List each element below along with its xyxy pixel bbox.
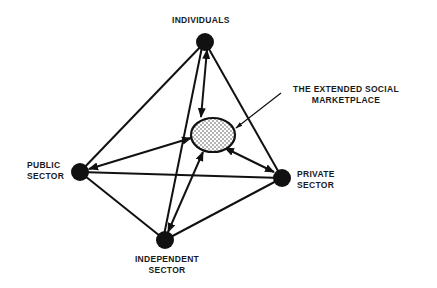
- node-public-sector: [71, 163, 89, 181]
- label-extended-social-marketplace: THE EXTENDED SOCIAL MARKETPLACE: [286, 84, 406, 106]
- node-individuals: [196, 33, 214, 51]
- label-center-line1: THE EXTENDED SOCIAL: [286, 84, 406, 95]
- label-private-line1: PRIVATE: [297, 169, 335, 180]
- edge-independent-private: [165, 178, 282, 240]
- label-private-sector: PRIVATE SECTOR: [297, 169, 335, 191]
- edge-public-independent: [80, 172, 165, 240]
- arrow-public-center: [89, 138, 191, 169]
- label-public-line1: PUBLIC: [27, 160, 64, 171]
- label-independent-sector: INDEPENDENT SECTOR: [127, 254, 207, 276]
- arrow-individuals-center: [201, 50, 207, 117]
- node-independent-sector: [156, 231, 174, 249]
- label-independent-line2: SECTOR: [127, 265, 207, 276]
- node-private-sector: [273, 169, 291, 187]
- label-independent-line1: INDEPENDENT: [127, 254, 207, 265]
- label-center-line2: MARKETPLACE: [286, 95, 406, 106]
- label-private-line2: SECTOR: [297, 180, 335, 191]
- extended-social-marketplace-ellipse: [191, 118, 235, 152]
- label-public-sector: PUBLIC SECTOR: [27, 160, 64, 182]
- label-public-line2: SECTOR: [27, 171, 64, 182]
- edge-public-private: [80, 172, 282, 178]
- social-marketplace-diagram: [0, 0, 437, 288]
- label-individuals: INDIVIDUALS: [172, 15, 230, 26]
